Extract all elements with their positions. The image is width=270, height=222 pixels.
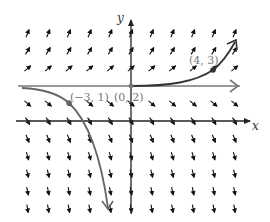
slope-arrow [211, 101, 217, 106]
slope-arrow [151, 152, 153, 160]
slope-arrow [231, 66, 237, 71]
slope-arrow [151, 205, 152, 213]
slope-arrow [149, 66, 155, 71]
slope-arrow [231, 101, 237, 106]
slope-arrow [89, 170, 91, 178]
slope-arrow [67, 30, 70, 37]
slope-arrow [46, 48, 50, 55]
slope-arrow [66, 66, 72, 71]
slope-arrow [109, 170, 111, 178]
slope-arrow [110, 187, 112, 195]
slope-arrow [109, 135, 112, 142]
solution-curve-falling [22, 88, 108, 208]
label-0-2: (0, 2) [114, 91, 144, 104]
slope-arrow [213, 170, 215, 178]
slope-arrow [88, 48, 92, 55]
slope-arrow [171, 152, 173, 160]
point-4-3 [210, 67, 216, 73]
slope-arrow [192, 135, 195, 142]
slope-arrow [172, 187, 174, 195]
slope-arrow [108, 48, 112, 55]
point-0-2 [129, 84, 134, 89]
slope-arrow [170, 48, 174, 55]
slope-arrow [67, 135, 70, 142]
slope-arrow [213, 205, 214, 213]
solution-curve-rising [131, 42, 235, 86]
slope-arrow [151, 170, 153, 178]
slope-arrow [169, 66, 175, 71]
slope-arrow [67, 48, 71, 55]
slope-arrow [172, 205, 173, 213]
slope-arrow [45, 66, 51, 71]
label-4-3: (4, 3) [189, 54, 219, 67]
slope-arrow [150, 48, 154, 55]
slope-arrow [233, 48, 237, 55]
slope-arrow [192, 170, 194, 178]
slope-arrow [47, 30, 50, 37]
slope-arrow [149, 101, 155, 106]
slope-arrow [89, 205, 90, 213]
slope-arrow [192, 187, 194, 195]
slope-arrow [24, 66, 30, 71]
slope-arrow [27, 170, 29, 178]
slope-arrow [213, 152, 215, 160]
slope-arrow [47, 152, 49, 160]
slope-arrow [171, 135, 174, 142]
label-minus3-1: (−3, 1) [70, 91, 109, 104]
slope-arrow [233, 30, 236, 37]
slope-arrow [192, 30, 195, 37]
slope-arrow [27, 187, 29, 195]
slope-arrow [47, 187, 49, 195]
slope-arrow [68, 205, 69, 213]
slope-arrow [89, 187, 91, 195]
slope-arrow [26, 30, 29, 37]
slope-arrow [234, 205, 235, 213]
slope-arrow [192, 205, 193, 213]
slope-arrow [88, 30, 91, 37]
slope-arrow [24, 101, 30, 106]
slope-arrow [27, 205, 28, 213]
slope-arrow [192, 152, 194, 160]
slope-arrow [190, 101, 196, 106]
slope-arrow [47, 135, 50, 142]
slope-arrow [150, 135, 153, 142]
slope-arrow [26, 152, 28, 160]
slope-arrow [107, 66, 113, 71]
slope-arrow [150, 30, 153, 37]
slope-arrow [234, 170, 236, 178]
slope-arrow [47, 170, 49, 178]
slope-arrow [212, 135, 215, 142]
slope-arrow [169, 101, 175, 106]
slope-arrow [26, 48, 30, 55]
slope-arrow [68, 187, 70, 195]
slope-arrow [48, 205, 49, 213]
slope-arrow [26, 135, 29, 142]
slope-arrow [109, 152, 111, 160]
slope-arrow [109, 30, 112, 37]
slope-arrow [45, 101, 51, 106]
slope-arrow [233, 152, 235, 160]
slope-arrow [151, 187, 153, 195]
slope-field-diagram: x y (−3, 1) (0, 2) (4, 3) [0, 0, 270, 222]
slope-arrow [212, 30, 215, 37]
slope-arrow [233, 135, 236, 142]
slope-arrow [68, 170, 70, 178]
slope-arrow [172, 170, 174, 178]
slope-arrow [89, 152, 91, 160]
x-axis-label: x [252, 119, 259, 133]
y-axis-label: y [116, 11, 124, 25]
slope-arrow [68, 152, 70, 160]
slope-arrow [171, 30, 174, 37]
slope-arrow [213, 187, 215, 195]
slope-arrow [234, 187, 236, 195]
slope-arrow [87, 66, 93, 71]
